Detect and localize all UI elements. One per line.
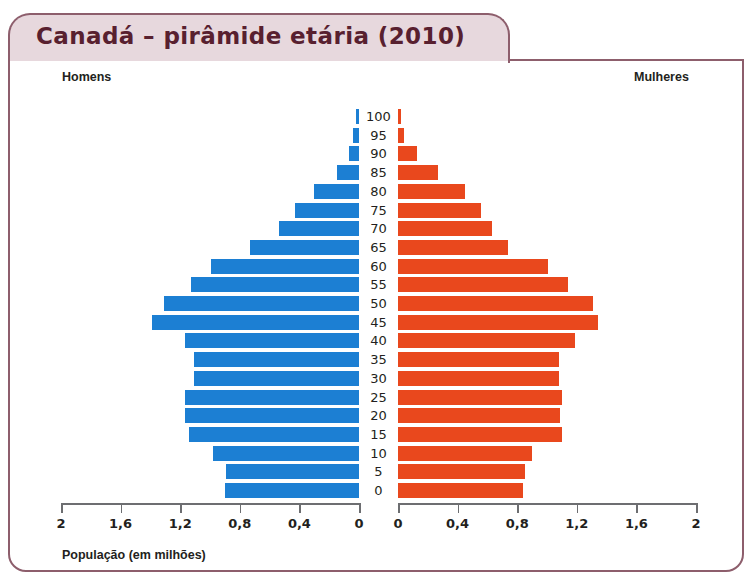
page-title: Canadá – pirâmide etária (2010): [36, 23, 465, 49]
bar-female-10: [398, 446, 532, 461]
bar-male-100: [356, 109, 359, 124]
bar-male-20: [185, 408, 359, 423]
x-right-3-tick-label: 1,2: [557, 516, 597, 531]
age-label-25: 25: [360, 389, 397, 407]
age-label-60: 60: [360, 258, 397, 276]
bar-male-95: [353, 128, 359, 143]
x-left-2-tick-label: 1,2: [160, 516, 200, 531]
bar-male-75: [295, 203, 359, 218]
legend-label-women: Mulheres: [634, 70, 689, 84]
x-left-2-tick: [180, 503, 182, 513]
figure-frame-top-line: [510, 59, 744, 61]
bar-female-95: [398, 128, 404, 143]
bar-male-40: [185, 333, 359, 348]
bar-male-35: [194, 352, 359, 367]
age-label-75: 75: [360, 202, 397, 220]
bar-male-65: [250, 240, 359, 255]
bar-female-30: [398, 371, 559, 386]
bar-female-100: [398, 109, 401, 124]
age-label-85: 85: [360, 164, 397, 182]
age-label-15: 15: [360, 426, 397, 444]
bar-male-70: [279, 221, 359, 236]
x-left-1-tick-label: 1,6: [101, 516, 141, 531]
bar-female-50: [398, 296, 593, 311]
bar-female-0: [398, 483, 523, 498]
age-label-20: 20: [360, 407, 397, 425]
age-label-40: 40: [360, 332, 397, 350]
age-label-0: 0: [360, 482, 397, 500]
bar-male-45: [152, 315, 359, 330]
x-right-1-tick: [458, 503, 460, 513]
bar-female-5: [398, 464, 525, 479]
x-right-0-tick-label: 0: [378, 516, 418, 531]
bar-female-35: [398, 352, 559, 367]
bar-female-15: [398, 427, 562, 442]
bar-female-25: [398, 390, 562, 405]
bar-male-15: [189, 427, 359, 442]
bar-male-25: [185, 390, 359, 405]
bar-female-70: [398, 221, 492, 236]
bar-male-60: [211, 259, 359, 274]
age-label-90: 90: [360, 145, 397, 163]
axis-caption: População (em milhões): [62, 548, 206, 562]
age-label-45: 45: [360, 314, 397, 332]
bar-female-75: [398, 203, 481, 218]
age-label-95: 95: [360, 127, 397, 145]
population-pyramid-figure: Canadá – pirâmide etária (2010) Homens M…: [0, 0, 753, 586]
bar-male-50: [164, 296, 359, 311]
x-left-1-tick: [121, 503, 123, 513]
x-left-5-tick: [359, 503, 361, 513]
x-axis-left: [61, 503, 359, 505]
x-right-2-tick: [517, 503, 519, 513]
age-label-100: 100: [360, 108, 397, 126]
bar-male-10: [213, 446, 359, 461]
x-left-4-tick-label: 0,4: [279, 516, 319, 531]
bar-male-85: [337, 165, 359, 180]
bar-male-90: [349, 146, 359, 161]
bar-female-45: [398, 315, 598, 330]
age-label-70: 70: [360, 220, 397, 238]
bar-female-40: [398, 333, 575, 348]
bar-female-55: [398, 277, 568, 292]
bar-female-80: [398, 184, 465, 199]
x-right-4-tick: [636, 503, 638, 513]
age-label-50: 50: [360, 295, 397, 313]
x-right-5-tick: [696, 503, 698, 513]
bar-male-80: [314, 184, 359, 199]
x-right-2-tick-label: 0,8: [497, 516, 537, 531]
x-right-4-tick-label: 1,6: [616, 516, 656, 531]
age-label-80: 80: [360, 183, 397, 201]
bar-male-0: [225, 483, 359, 498]
x-right-1-tick-label: 0,4: [438, 516, 478, 531]
bar-female-60: [398, 259, 548, 274]
bar-male-5: [226, 464, 359, 479]
x-axis-right: [398, 503, 696, 505]
x-left-4-tick: [299, 503, 301, 513]
age-label-5: 5: [360, 463, 397, 481]
age-label-55: 55: [360, 276, 397, 294]
x-left-0-tick: [61, 503, 63, 513]
bar-male-30: [194, 371, 359, 386]
chart-canvas: Homens Mulheres 100959085807570656055504…: [0, 0, 753, 586]
bar-male-55: [191, 277, 359, 292]
age-label-30: 30: [360, 370, 397, 388]
bar-female-85: [398, 165, 438, 180]
x-left-0-tick-label: 2: [41, 516, 81, 531]
bar-female-65: [398, 240, 508, 255]
x-left-3-tick: [240, 503, 242, 513]
age-label-10: 10: [360, 445, 397, 463]
legend-label-men: Homens: [62, 70, 111, 84]
x-left-3-tick-label: 0,8: [220, 516, 260, 531]
title-tab: Canadá – pirâmide etária (2010): [8, 13, 510, 61]
x-right-5-tick-label: 2: [676, 516, 716, 531]
age-label-65: 65: [360, 239, 397, 257]
x-right-0-tick: [398, 503, 400, 513]
bar-female-90: [398, 146, 417, 161]
x-left-5-tick-label: 0: [339, 516, 379, 531]
x-right-3-tick: [577, 503, 579, 513]
bar-female-20: [398, 408, 560, 423]
age-label-35: 35: [360, 351, 397, 369]
